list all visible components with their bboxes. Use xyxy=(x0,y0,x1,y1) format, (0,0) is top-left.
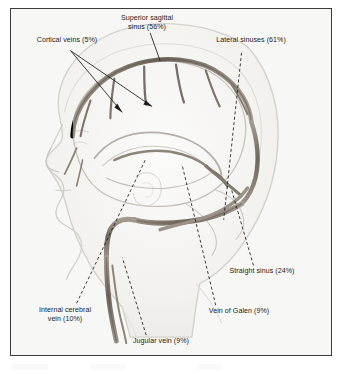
label-straight-sinus-text: Straight sinus (24%) xyxy=(230,267,295,275)
label-lateral-sinuses-text: Lateral sinuses (61%) xyxy=(216,36,286,44)
label-vein-of-galen: Vein of Galen (9%) xyxy=(189,307,289,316)
label-internal-cerebral-vein-line2: vein (10%) xyxy=(48,315,82,323)
below-frame-artifact xyxy=(12,364,312,370)
label-lateral-sinuses: Lateral sinuses (61%) xyxy=(199,36,303,45)
anatomy-illustration xyxy=(11,9,331,355)
label-internal-cerebral-vein-line1: Internal cerebral xyxy=(39,306,91,314)
diagram-frame: Superior sagittal sinus (56%) Cortical v… xyxy=(10,8,332,356)
label-superior-sagittal-sinus: Superior sagittal sinus (56%) xyxy=(99,14,195,31)
label-jugular-vein-text: Jugular vein (9%) xyxy=(133,337,189,345)
label-vein-of-galen-text: Vein of Galen (9%) xyxy=(209,307,269,315)
label-straight-sinus: Straight sinus (24%) xyxy=(207,267,317,276)
label-superior-sagittal-sinus-line1: Superior sagittal xyxy=(121,14,173,22)
label-cortical-veins-text: Cortical veins (5%) xyxy=(37,36,97,44)
label-internal-cerebral-vein: Internal cerebral vein (10%) xyxy=(17,306,113,323)
label-cortical-veins: Cortical veins (5%) xyxy=(19,36,115,45)
label-superior-sagittal-sinus-line2: sinus (56%) xyxy=(128,23,166,31)
label-jugular-vein: Jugular vein (9%) xyxy=(111,337,211,346)
figure-root: Superior sagittal sinus (56%) Cortical v… xyxy=(0,0,344,374)
